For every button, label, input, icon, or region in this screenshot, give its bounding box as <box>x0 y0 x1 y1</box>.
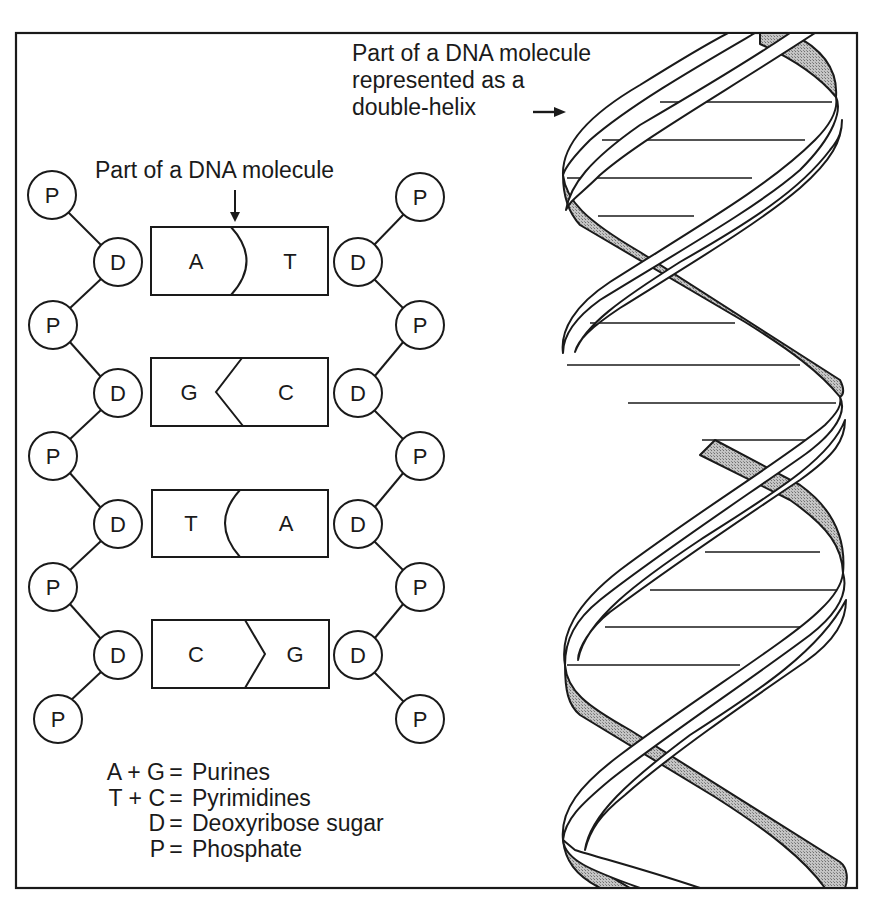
legend-term: P <box>80 837 165 863</box>
legend-term: T + C <box>80 786 165 812</box>
node-label: P <box>51 707 66 732</box>
base-letter: C <box>278 380 294 405</box>
legend-definition: Purines <box>187 760 270 786</box>
legend-row-pyrimidines: T + C = Pyrimidines <box>80 786 384 812</box>
legend: A + G = Purines T + C = Pyrimidines D = … <box>80 760 384 862</box>
legend-equals: = <box>165 811 187 837</box>
base-letters: A T G C T A C G <box>180 249 303 667</box>
base-letter: G <box>180 380 197 405</box>
node-label: D <box>350 643 366 668</box>
ladder-arrow-icon <box>230 190 240 222</box>
node-label: P <box>413 313 428 338</box>
legend-definition: Phosphate <box>187 837 302 863</box>
base-pair-1 <box>151 227 328 295</box>
node-label: P <box>413 444 428 469</box>
dna-ladder <box>28 171 444 743</box>
node-label: D <box>110 250 126 275</box>
node-label: P <box>413 575 428 600</box>
legend-definition: Pyrimidines <box>187 786 311 812</box>
helix-title-line-1: Part of a DNA molecule <box>352 40 591 66</box>
node-label: D <box>110 512 126 537</box>
legend-term: A + G <box>80 760 165 786</box>
legend-row-purines: A + G = Purines <box>80 760 384 786</box>
legend-equals: = <box>165 760 187 786</box>
node-label: P <box>46 575 61 600</box>
helix-title-line-2: represented as a <box>352 67 525 93</box>
legend-term: D <box>80 811 165 837</box>
node-label: D <box>110 643 126 668</box>
node-label: P <box>46 444 61 469</box>
helix-arrow-icon <box>533 107 566 117</box>
node-label: D <box>350 250 366 275</box>
base-letter: A <box>279 511 294 536</box>
node-label: D <box>350 512 366 537</box>
right-node-labels: P D P D P D P D P <box>350 185 427 732</box>
legend-equals: = <box>165 837 187 863</box>
left-node-labels: P D P D P D P D P <box>45 183 126 732</box>
base-pair-2 <box>151 358 328 426</box>
helix-title-line-3: double-helix <box>352 94 476 120</box>
node-label: P <box>46 313 61 338</box>
legend-row-deoxyribose: D = Deoxyribose sugar <box>80 811 384 837</box>
double-helix <box>563 33 847 888</box>
legend-row-phosphate: P = Phosphate <box>80 837 384 863</box>
base-letter: T <box>283 249 296 274</box>
legend-equals: = <box>165 786 187 812</box>
base-letter: C <box>188 642 204 667</box>
base-letter: T <box>184 511 197 536</box>
base-letter: G <box>286 642 303 667</box>
node-label: D <box>350 381 366 406</box>
helix-front-strand <box>563 33 846 888</box>
node-label: P <box>413 707 428 732</box>
node-label: P <box>413 185 428 210</box>
base-letter: A <box>189 249 204 274</box>
ladder-title: Part of a DNA molecule <box>95 157 334 183</box>
node-label: P <box>45 183 60 208</box>
legend-definition: Deoxyribose sugar <box>187 811 384 837</box>
node-label: D <box>110 381 126 406</box>
base-pair-3 <box>152 490 328 557</box>
